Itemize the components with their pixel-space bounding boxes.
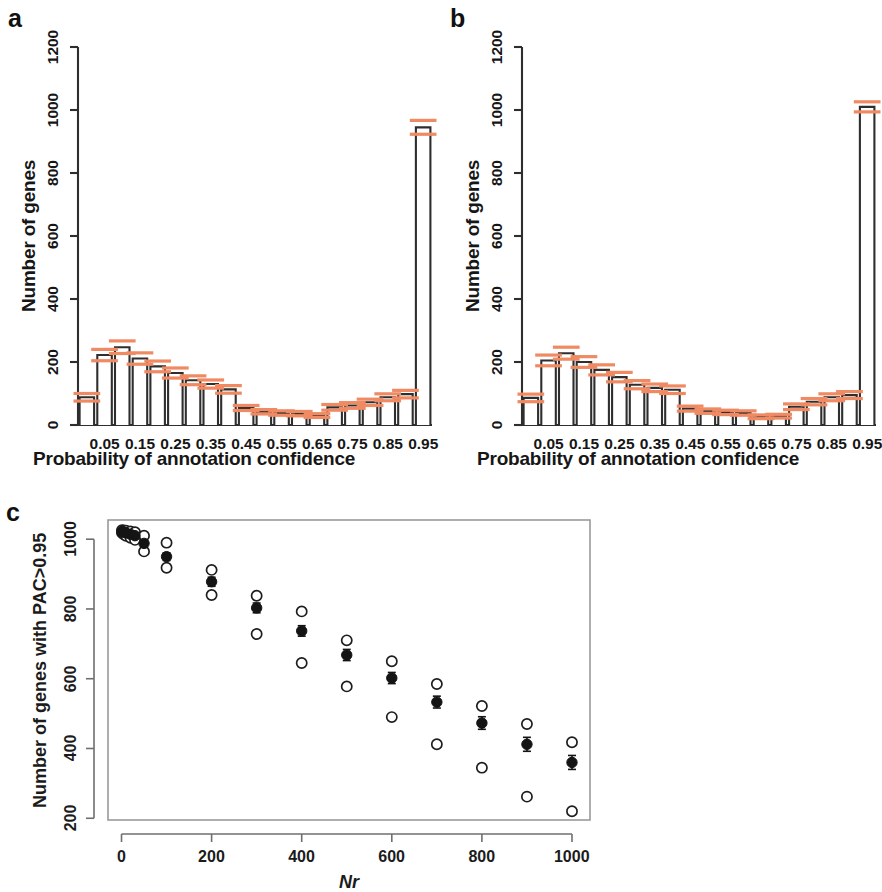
bar-19 — [416, 127, 431, 425]
y-tick-label-0: 0 — [488, 421, 506, 430]
point-mean-14 — [522, 739, 532, 749]
c-x-tick-label-0: 0 — [117, 848, 126, 866]
y-tick-label-800: 800 — [488, 160, 506, 186]
point-minimum-10 — [342, 681, 352, 691]
point-mean-9 — [297, 626, 307, 636]
panel-a-plot — [0, 0, 440, 480]
panel-letter-c: c — [6, 500, 20, 525]
y-tick-label-200: 200 — [488, 349, 506, 375]
y-tick-label-400: 400 — [488, 286, 506, 312]
point-mean-8 — [251, 603, 261, 613]
bar-group-2 — [115, 347, 130, 425]
point-mean-13 — [477, 718, 487, 728]
c-x-tick-label-600: 600 — [378, 848, 405, 866]
y-tick-label-600: 600 — [44, 223, 62, 249]
y-tick-label-400: 400 — [44, 286, 62, 312]
bar-2 — [115, 347, 130, 425]
x-tick-label-0.15: 0.15 — [569, 435, 599, 453]
point-minimum-11 — [387, 712, 397, 722]
panel-a-y-axis-title: Number of genes — [18, 160, 40, 312]
point-minimum-15 — [567, 806, 577, 816]
mean-point-group-14 — [522, 737, 532, 751]
bar-group-4 — [150, 366, 165, 425]
point-mean-7 — [206, 577, 216, 587]
point-minimum-12 — [432, 739, 442, 749]
bar-4 — [150, 366, 165, 425]
bar-2 — [559, 353, 574, 425]
point-minimum-14 — [522, 792, 532, 802]
y-tick-label-1000: 1000 — [44, 93, 62, 127]
panel-b: b Number of genes Probability of annotat… — [440, 0, 880, 480]
bar-group-3 — [577, 362, 592, 425]
bar-5 — [168, 373, 183, 425]
point-minimum-13 — [477, 763, 487, 773]
mean-point-group-10 — [342, 649, 352, 660]
x-tick-label-0.65: 0.65 — [302, 435, 332, 453]
point-minimum-9 — [297, 658, 307, 668]
x-tick-label-0.25: 0.25 — [604, 435, 634, 453]
bar-19 — [860, 107, 875, 425]
x-tick-label-0.85: 0.85 — [817, 435, 847, 453]
y-tick-label-1200: 1200 — [44, 30, 62, 64]
x-tick-label-0.55: 0.55 — [267, 435, 297, 453]
point-mean-12 — [432, 697, 442, 707]
bar-group-7 — [203, 384, 218, 425]
x-tick-label-0.05: 0.05 — [534, 435, 564, 453]
point-maximum-9 — [297, 606, 307, 616]
point-mean-6 — [161, 551, 171, 561]
x-tick-label-0.25: 0.25 — [160, 435, 190, 453]
panel-c-y-axis-title: Number of genes with PAC>0.95 — [30, 532, 51, 807]
c-y-tick-label-600: 600 — [62, 665, 80, 692]
mean-point-group-15 — [567, 755, 577, 769]
point-mean-15 — [567, 757, 577, 767]
panel-c-x-axis-title: Nr — [339, 872, 359, 892]
point-minimum-6 — [161, 563, 171, 573]
bar-group-5 — [168, 373, 183, 425]
c-y-tick-label-1000: 1000 — [62, 521, 80, 557]
panel-a: a Number of genes Probability of annotat… — [0, 0, 440, 480]
x-tick-label-0.55: 0.55 — [711, 435, 741, 453]
point-mean-11 — [387, 673, 397, 683]
panel-b-plot — [440, 0, 880, 480]
x-tick-label-0.15: 0.15 — [125, 435, 155, 453]
mean-point-group-9 — [297, 626, 307, 636]
x-tick-label-0.65: 0.65 — [746, 435, 776, 453]
mean-point-group-11 — [387, 672, 397, 683]
plot-frame — [108, 520, 590, 820]
mean-point-group-7 — [206, 577, 216, 587]
bar-group-19 — [860, 107, 875, 425]
panel-b-y-axis-title: Number of genes — [462, 160, 484, 312]
bar-group-2 — [559, 353, 574, 425]
bar-1 — [97, 355, 112, 425]
y-tick-label-1200: 1200 — [488, 30, 506, 64]
x-tick-label-0.95: 0.95 — [852, 435, 882, 453]
mean-point-group-4 — [130, 530, 140, 540]
c-y-tick-label-400: 400 — [62, 735, 80, 762]
panel-letter-b: b — [450, 6, 465, 31]
x-tick-label-0.05: 0.05 — [90, 435, 120, 453]
x-tick-label-0.45: 0.45 — [675, 435, 705, 453]
bar-4 — [594, 370, 609, 425]
x-tick-label-0.75: 0.75 — [781, 435, 811, 453]
bar-group-1 — [97, 355, 112, 425]
mean-point-group-6 — [161, 551, 171, 561]
c-x-tick-label-1000: 1000 — [554, 848, 590, 866]
point-maximum-7 — [207, 565, 217, 575]
x-tick-label-0.45: 0.45 — [231, 435, 261, 453]
c-x-tick-label-200: 200 — [198, 848, 225, 866]
mean-point-group-12 — [432, 696, 442, 708]
mean-point-group-5 — [139, 538, 149, 548]
point-mean-10 — [342, 650, 352, 660]
point-maximum-12 — [432, 679, 442, 689]
bar-5 — [612, 377, 627, 425]
x-tick-label-0.35: 0.35 — [640, 435, 670, 453]
point-maximum-6 — [161, 538, 171, 548]
y-tick-label-800: 800 — [44, 160, 62, 186]
x-tick-label-0.75: 0.75 — [337, 435, 367, 453]
y-tick-label-1000: 1000 — [488, 93, 506, 127]
bar-7 — [203, 384, 218, 425]
y-tick-label-600: 600 — [488, 223, 506, 249]
panel-c: c Number of genes with PAC>0.95 Nr 20040… — [0, 490, 880, 884]
point-maximum-8 — [252, 591, 262, 601]
